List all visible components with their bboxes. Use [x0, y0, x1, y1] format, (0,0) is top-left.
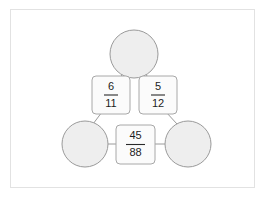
- node-bottom-right-circle[interactable]: [165, 121, 211, 167]
- fraction-box-right-numerator: 5: [155, 80, 161, 92]
- fraction-box-right[interactable]: 5 12: [139, 76, 177, 114]
- node-bottom-left-circle[interactable]: [62, 121, 108, 167]
- fraction-box-bottom-numerator: 45: [129, 129, 141, 141]
- diagram-canvas: 6 11 5 12 45 88: [0, 0, 266, 198]
- node-top-circle[interactable]: [110, 30, 158, 78]
- diagram-graph: 6 11 5 12 45 88: [0, 0, 266, 198]
- fraction-box-bottom-denominator: 88: [129, 146, 141, 158]
- fraction-box-bottom[interactable]: 45 88: [116, 125, 155, 164]
- fraction-box-left[interactable]: 6 11: [92, 76, 130, 114]
- fraction-box-left-numerator: 6: [108, 80, 114, 92]
- fraction-box-right-denominator: 12: [152, 97, 164, 109]
- fraction-box-left-denominator: 11: [105, 97, 116, 109]
